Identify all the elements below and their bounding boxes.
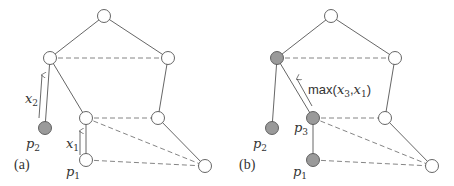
node-inner-right: [152, 112, 165, 125]
dashed-edge: [86, 118, 205, 166]
node-left-filled: [271, 52, 284, 65]
label-max-x3-x1: max(x3,x1): [308, 82, 371, 99]
label-p3: p3: [294, 120, 308, 137]
node-right: [162, 52, 175, 65]
label-x1: x1: [66, 136, 79, 153]
label-x2: x2: [25, 91, 38, 108]
panel-b: max(x3,x1) p3 p2 p1 (b): [239, 10, 439, 182]
node-left: [44, 52, 57, 65]
edge: [385, 118, 432, 166]
panel-a: x2 x1 p2 p1 (a): [14, 10, 212, 182]
node-p3-filled: [307, 112, 320, 125]
label-p1: p1: [293, 164, 307, 181]
panel-label-a: (a): [14, 157, 30, 173]
edge: [158, 58, 168, 118]
node-inner-right: [379, 112, 392, 125]
node-p2-filled: [39, 122, 52, 135]
dashed-edge: [86, 160, 205, 166]
edge: [50, 16, 104, 58]
label-p1: p1: [66, 164, 80, 181]
dashed-edge: [313, 118, 432, 166]
edge: [45, 58, 50, 128]
edge: [50, 58, 86, 118]
diagram-canvas: x2 x1 p2 p1 (a) max(x3,x1) p3 p2: [0, 0, 454, 186]
node-top: [98, 10, 111, 23]
node-bottom-right: [199, 160, 212, 173]
label-p2: p2: [26, 136, 40, 153]
dashed-edge: [313, 160, 432, 166]
node-inner-left: [80, 112, 93, 125]
label-p2: p2: [253, 136, 267, 153]
node-top: [325, 10, 338, 23]
panel-label-b: (b): [239, 157, 256, 173]
edge: [277, 16, 331, 58]
node-right: [389, 52, 402, 65]
node-p2-filled: [266, 122, 279, 135]
edge: [272, 58, 277, 128]
node-p1: [80, 154, 93, 167]
edge: [331, 16, 395, 58]
edge: [104, 16, 168, 58]
edge: [385, 58, 395, 118]
node-p1-filled: [307, 154, 320, 167]
node-bottom-right: [426, 160, 439, 173]
edge: [158, 118, 205, 166]
arrow-x2-icon: [39, 75, 42, 118]
